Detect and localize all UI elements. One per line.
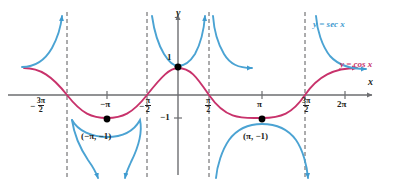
y-tick-label-one: 1 bbox=[167, 53, 172, 62]
fraction-numerator: π bbox=[145, 97, 151, 105]
minus-sign: − bbox=[30, 102, 35, 111]
fraction-neg-pi-over-two: π 2 bbox=[145, 97, 151, 114]
secant-branch-left-lower-a bbox=[72, 120, 98, 178]
x-tick-label-two-pi: 2π bbox=[337, 100, 346, 109]
x-tick-label-three-pi-over-two: 3π 2 bbox=[301, 98, 311, 115]
x-axis-label: x bbox=[368, 77, 373, 87]
fraction-numerator: 3π bbox=[36, 97, 46, 105]
x-tick-label-pi-over-two: π 2 bbox=[205, 98, 211, 115]
cosine-curve-label: y = cos x bbox=[340, 60, 372, 69]
secant-branch-right-upper bbox=[213, 16, 252, 68]
fraction-numerator: π bbox=[205, 97, 211, 105]
y-tick-label-neg-one: −1 bbox=[160, 113, 170, 122]
x-tick-label-neg-pi-over-two: − π 2 bbox=[139, 98, 151, 115]
secant-curve-label: y = sec x bbox=[313, 20, 345, 29]
fraction-numerator: 3π bbox=[301, 97, 311, 105]
point-label-right-minimum: (π, −1) bbox=[243, 132, 268, 141]
secant-branch-left-lower-c bbox=[107, 120, 141, 178]
y-axis-label: y bbox=[176, 8, 180, 18]
point-right-minimum bbox=[259, 116, 266, 123]
secant-cosine-graph-figure: y x y = sec x y = cos x − 3π 2 −π − π 2 … bbox=[0, 0, 401, 183]
point-left-minimum bbox=[104, 116, 111, 123]
secant-branch-left-upper bbox=[22, 16, 62, 67]
fraction-three-pi-over-two: 3π 2 bbox=[301, 97, 311, 114]
secant-curve bbox=[22, 16, 366, 178]
fraction-pi-over-two: π 2 bbox=[205, 97, 211, 114]
fraction-neg-three-pi-over-two: 3π 2 bbox=[36, 97, 46, 114]
fraction-denominator: 2 bbox=[145, 105, 151, 114]
fraction-denominator: 2 bbox=[205, 105, 211, 114]
x-tick-label-pi: π bbox=[257, 100, 262, 109]
fraction-denominator: 2 bbox=[303, 105, 309, 114]
x-tick-label-neg-three-pi-over-two: − 3π 2 bbox=[30, 98, 46, 115]
fraction-denominator: 2 bbox=[38, 105, 44, 114]
axes-group bbox=[8, 15, 372, 175]
point-label-left-minimum: (−π, −1) bbox=[81, 132, 111, 141]
minus-sign: − bbox=[139, 102, 144, 111]
point-maximum-origin bbox=[175, 64, 182, 71]
x-tick-label-neg-pi: −π bbox=[100, 100, 110, 109]
